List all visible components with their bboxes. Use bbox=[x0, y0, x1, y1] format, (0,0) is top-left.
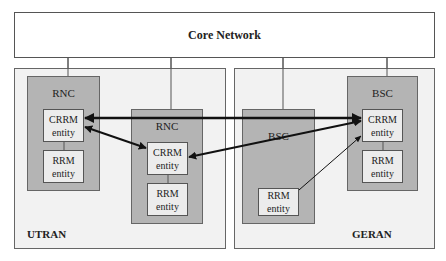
rnc-2-rrm-entity: RRM entity bbox=[147, 183, 188, 216]
rnc-1-crrm-entity: CRRM entity bbox=[43, 109, 84, 142]
rnc-2-crrm-entity: CRRM entity bbox=[147, 142, 188, 175]
core-network-box: Core Network bbox=[14, 12, 435, 58]
core-network-label: Core Network bbox=[188, 28, 261, 43]
bsc-1-label: BSC bbox=[243, 130, 314, 142]
bsc-2-label: BSC bbox=[348, 87, 417, 99]
rnc-1-label: RNC bbox=[28, 87, 99, 99]
geran-label: GERAN bbox=[352, 228, 392, 240]
rnc-2-label: RNC bbox=[132, 120, 202, 132]
bsc-1-rrm-entity: RRM entity bbox=[258, 188, 299, 216]
utran-label: UTRAN bbox=[27, 228, 66, 240]
bsc-2-rrm-entity: RRM entity bbox=[362, 150, 403, 183]
rnc-1-rrm-entity: RRM entity bbox=[43, 150, 84, 183]
bsc-2-crrm-entity: CRRM entity bbox=[362, 109, 403, 142]
